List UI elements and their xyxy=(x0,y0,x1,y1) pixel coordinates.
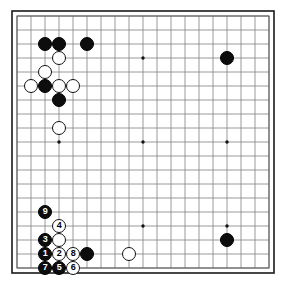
star-point xyxy=(225,224,228,227)
stone-move-number: 2 xyxy=(57,249,62,258)
go-diagram-root: 943128756 xyxy=(0,0,286,307)
star-point xyxy=(141,56,144,59)
stone-move-number: 6 xyxy=(71,263,76,272)
stone-move-number: 3 xyxy=(43,235,48,244)
star-point xyxy=(225,140,228,143)
star-point xyxy=(141,140,144,143)
star-point xyxy=(141,224,144,227)
stone-move-number: 9 xyxy=(43,207,48,216)
stone-move-number: 5 xyxy=(57,263,62,272)
star-point xyxy=(57,140,60,143)
board-container: 943128756 xyxy=(0,0,286,307)
stone-move-number: 4 xyxy=(57,221,62,230)
stone-move-number: 7 xyxy=(43,263,48,272)
stone-move-number: 1 xyxy=(43,249,48,258)
stone-move-number: 8 xyxy=(71,249,76,258)
